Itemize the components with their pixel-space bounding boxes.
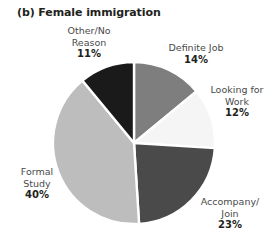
slice-label-line1: Looking for	[210, 84, 263, 95]
slice-value: 40%	[6, 189, 68, 201]
slice-label-other-no-reason: Other/No Reason 11%	[52, 25, 126, 60]
slice-label-line1: Other/No	[67, 25, 110, 36]
slice-value: 14%	[153, 54, 239, 66]
slice-label-looking-for-work: Looking for Work 12%	[198, 84, 276, 119]
slice-value: 12%	[198, 107, 276, 119]
pie-chart-figure: (b) Female immigration Other/No Reason 1…	[0, 0, 278, 246]
slice-label-formal-study: Formal Study 40%	[6, 166, 68, 201]
slice-value: 11%	[52, 48, 126, 60]
slice-label-line1: Definite Job	[168, 42, 223, 53]
slice-label-line2: Study	[23, 178, 50, 189]
slice-label-accompany-join: Accompany/ Join 23%	[186, 196, 274, 231]
slice-label-line2: Reason	[72, 37, 107, 48]
slice-label-definite-job: Definite Job 14%	[153, 42, 239, 66]
slice-value: 23%	[186, 219, 274, 231]
slice-label-line1: Formal	[21, 166, 53, 177]
slice-label-line2: Join	[221, 208, 238, 219]
slice-label-line1: Accompany/	[201, 196, 260, 207]
slice-label-line2: Work	[225, 96, 249, 107]
